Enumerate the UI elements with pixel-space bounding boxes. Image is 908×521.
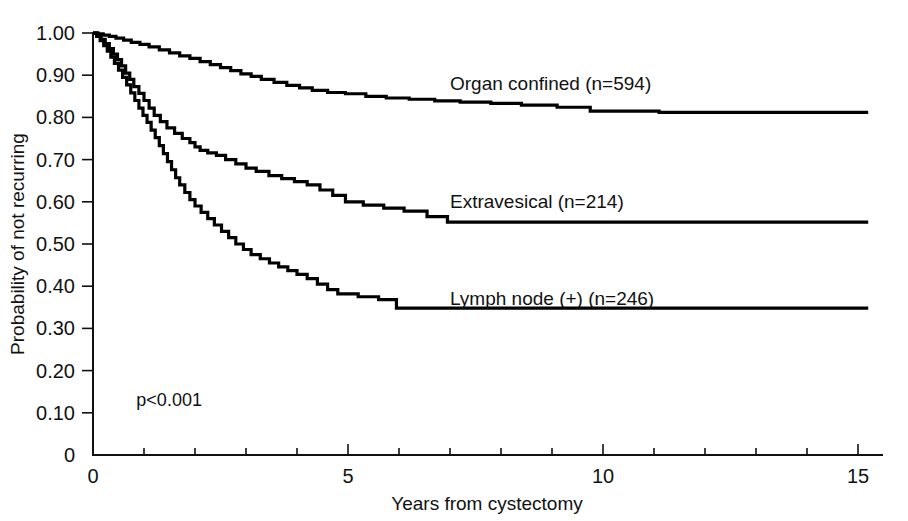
y-tick-label-0.70: 0.70: [36, 149, 75, 171]
x-axis-title: Years from cystectomy: [391, 493, 583, 514]
curve-label-lymph-node: Lymph node (+) (n=246): [450, 288, 654, 309]
y-tick-label-0.20: 0.20: [36, 360, 75, 382]
x-tick-label-0: 0: [87, 465, 98, 487]
curve-label-extravesical: Extravesical (n=214): [450, 191, 624, 212]
y-tick-label-0.80: 0.80: [36, 106, 75, 128]
y-axis-title: Probability of not recurring: [7, 133, 28, 355]
y-tick-label-0: 0: [64, 444, 75, 466]
y-tick-label-0.50: 0.50: [36, 233, 75, 255]
y-tick-label-0.10: 0.10: [36, 402, 75, 424]
y-tick-label-0.60: 0.60: [36, 191, 75, 213]
chart-annotations: p<0.001: [136, 390, 202, 410]
y-tick-label-0.30: 0.30: [36, 317, 75, 339]
curve-label-organ-confined: Organ confined (n=594): [450, 73, 651, 94]
annotation-p-value: p<0.001: [136, 390, 202, 410]
y-tick-label-0.40: 0.40: [36, 275, 75, 297]
y-tick-label-0.90: 0.90: [36, 64, 75, 86]
y-tick-label-1.00: 1.00: [36, 22, 75, 44]
x-tick-label-15: 15: [847, 465, 869, 487]
kaplan-meier-figure: 00.100.200.300.400.500.600.700.800.901.0…: [0, 0, 908, 521]
x-tick-label-5: 5: [342, 465, 353, 487]
kaplan-meier-chart: 00.100.200.300.400.500.600.700.800.901.0…: [0, 0, 908, 521]
x-tick-label-10: 10: [592, 465, 614, 487]
